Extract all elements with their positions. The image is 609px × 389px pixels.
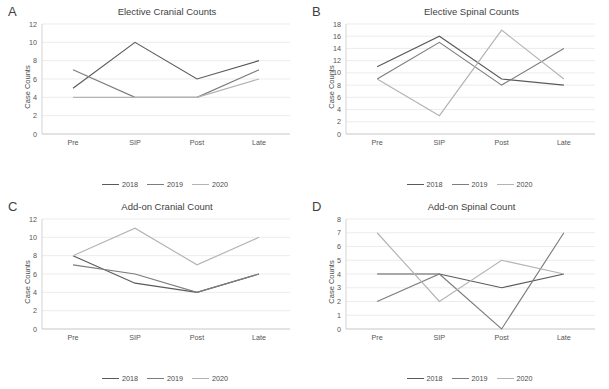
y-tick-label: 2 <box>337 117 341 126</box>
x-tick-label: SIP <box>434 138 446 147</box>
y-tick-label: 8 <box>337 81 341 90</box>
series-line-2018 <box>73 42 259 88</box>
y-tick-label: 7 <box>337 228 341 237</box>
x-tick-label: Post <box>494 333 508 342</box>
x-tick-label: Pre <box>67 333 78 342</box>
x-tick-label: Late <box>252 333 266 342</box>
line-chart-a: 024681012PreSIPPostLate <box>0 18 304 156</box>
legend-swatch-icon <box>147 378 164 379</box>
x-tick-label: Late <box>557 333 571 342</box>
y-tick-label: 2 <box>337 297 341 306</box>
y-tick-label: 12 <box>29 20 37 29</box>
y-tick-label: 6 <box>33 270 37 279</box>
chart-legend: 201820192020 <box>0 180 304 189</box>
legend-swatch-icon <box>452 184 469 185</box>
legend-item-2020[interactable]: 2020 <box>192 180 228 189</box>
figure-panel-grid: A Elective Cranial Counts Case Counts 02… <box>0 0 609 389</box>
legend-item-2019[interactable]: 2019 <box>452 180 488 189</box>
legend-item-2020[interactable]: 2020 <box>497 180 533 189</box>
panel-a: A Elective Cranial Counts Case Counts 02… <box>0 0 304 195</box>
legend-swatch-icon <box>102 378 119 379</box>
panel-title: Elective Cranial Counts <box>0 6 304 17</box>
x-tick-label: Pre <box>372 333 383 342</box>
y-tick-label: 18 <box>333 20 341 29</box>
x-tick-label: Post <box>494 138 508 147</box>
plot-area: Case Counts 024681012PreSIPPostLate <box>0 213 304 351</box>
x-tick-label: Late <box>252 138 266 147</box>
legend-item-2020[interactable]: 2020 <box>497 374 533 383</box>
y-tick-label: 0 <box>337 325 341 334</box>
y-tick-label: 5 <box>337 256 341 265</box>
legend-swatch-icon <box>192 184 209 185</box>
x-tick-label: Late <box>557 138 571 147</box>
y-tick-label: 14 <box>333 44 341 53</box>
y-tick-label: 10 <box>29 233 37 242</box>
y-tick-label: 4 <box>337 105 341 114</box>
legend-item-2020[interactable]: 2020 <box>192 374 228 383</box>
legend-label: 2018 <box>122 180 138 189</box>
legend-label: 2018 <box>427 374 443 383</box>
legend-swatch-icon <box>407 378 424 379</box>
y-tick-label: 6 <box>337 93 341 102</box>
panel-c: C Add-on Cranial Count Case Counts 02468… <box>0 195 304 389</box>
legend-label: 2019 <box>472 180 488 189</box>
panel-title: Elective Spinal Counts <box>304 6 609 17</box>
series-line-2020 <box>73 228 259 265</box>
series-line-2020 <box>377 233 564 302</box>
legend-swatch-icon <box>147 184 164 185</box>
legend-swatch-icon <box>102 184 119 185</box>
legend-label: 2018 <box>122 374 138 383</box>
y-tick-label: 8 <box>33 251 37 260</box>
legend-label: 2020 <box>517 180 533 189</box>
legend-swatch-icon <box>497 184 514 185</box>
legend-item-2019[interactable]: 2019 <box>147 374 183 383</box>
y-tick-label: 12 <box>29 215 37 224</box>
y-tick-label: 10 <box>333 68 341 77</box>
panel-title: Add-on Spinal Count <box>304 201 609 212</box>
legend-swatch-icon <box>407 184 424 185</box>
y-tick-label: 6 <box>337 242 341 251</box>
legend-label: 2018 <box>427 180 443 189</box>
x-tick-label: Pre <box>67 138 78 147</box>
x-tick-label: SIP <box>129 333 141 342</box>
x-tick-label: SIP <box>434 333 446 342</box>
legend-label: 2020 <box>517 374 533 383</box>
x-tick-label: Post <box>190 138 204 147</box>
panel-b: B Elective Spinal Counts Case Counts 024… <box>304 0 609 195</box>
chart-legend: 201820192020 <box>304 180 609 189</box>
line-chart-b: 024681012141618PreSIPPostLate <box>304 18 609 156</box>
x-tick-label: Post <box>190 333 204 342</box>
legend-label: 2020 <box>212 180 228 189</box>
legend-item-2018[interactable]: 2018 <box>102 374 138 383</box>
y-tick-label: 4 <box>337 270 341 279</box>
y-tick-label: 2 <box>33 111 37 120</box>
legend-item-2019[interactable]: 2019 <box>452 374 488 383</box>
y-tick-label: 16 <box>333 32 341 41</box>
chart-legend: 201820192020 <box>304 374 609 383</box>
legend-item-2018[interactable]: 2018 <box>102 180 138 189</box>
legend-swatch-icon <box>192 378 209 379</box>
chart-legend: 201820192020 <box>0 374 304 383</box>
line-chart-c: 024681012PreSIPPostLate <box>0 213 304 351</box>
legend-label: 2019 <box>167 180 183 189</box>
legend-swatch-icon <box>497 378 514 379</box>
legend-label: 2019 <box>167 374 183 383</box>
y-tick-label: 1 <box>337 311 341 320</box>
legend-label: 2020 <box>212 374 228 383</box>
plot-area: Case Counts 024681012141618PreSIPPostLat… <box>304 18 609 156</box>
x-tick-label: Pre <box>372 138 383 147</box>
plot-area: Case Counts 012345678PreSIPPostLate <box>304 213 609 351</box>
series-line-2019 <box>73 70 259 98</box>
y-tick-label: 3 <box>337 283 341 292</box>
legend-item-2019[interactable]: 2019 <box>147 180 183 189</box>
legend-item-2018[interactable]: 2018 <box>407 374 443 383</box>
legend-item-2018[interactable]: 2018 <box>407 180 443 189</box>
y-tick-label: 10 <box>29 38 37 47</box>
y-tick-label: 12 <box>333 56 341 65</box>
y-tick-label: 6 <box>33 75 37 84</box>
legend-label: 2019 <box>472 374 488 383</box>
legend-swatch-icon <box>452 378 469 379</box>
line-chart-d: 012345678PreSIPPostLate <box>304 213 609 351</box>
y-tick-label: 2 <box>33 306 37 315</box>
y-tick-label: 0 <box>33 325 37 334</box>
